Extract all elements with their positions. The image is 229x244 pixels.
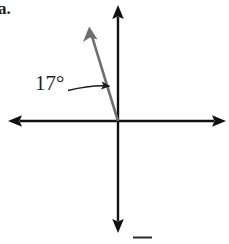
terminal-ray-arrowhead <box>83 27 98 43</box>
angle-figure: a. <box>0 0 229 244</box>
terminal-ray-line <box>92 35 118 121</box>
horizontal-axis-left-arrowhead <box>8 115 22 127</box>
coordinate-axes-diagram <box>0 0 229 244</box>
horizontal-axis-right-arrowhead <box>212 115 226 127</box>
vertical-axis-bottom-arrowhead <box>112 219 124 233</box>
angle-arc-arrow <box>68 86 110 91</box>
terminal-ray <box>83 27 118 122</box>
vertical-axis-top-arrowhead <box>112 5 124 19</box>
angle-arc-arrow-path <box>68 86 110 91</box>
angle-measure-label: 17° <box>35 71 64 95</box>
